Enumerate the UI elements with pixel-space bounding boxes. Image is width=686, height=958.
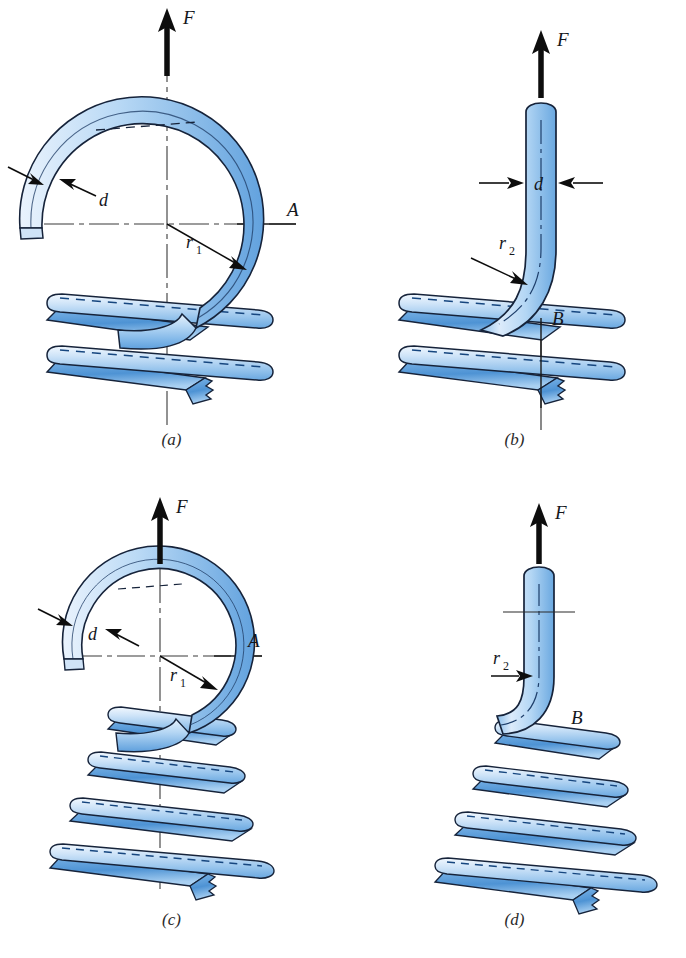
wire-diameter-label-b: d <box>534 174 544 194</box>
section-b-label-d: B <box>571 707 583 728</box>
svg-text:r: r <box>493 648 501 668</box>
svg-text:r: r <box>186 232 194 252</box>
hook-bend-d <box>497 567 554 734</box>
force-arrow-b <box>532 30 550 98</box>
section-a-label-c: A <box>246 630 260 651</box>
hook-radius-label-a: r 1 <box>186 232 202 257</box>
force-label-d: F <box>554 502 567 523</box>
spring-end-detail-figure: F d r 1 A (a) <box>0 0 686 958</box>
svg-text:1: 1 <box>180 676 186 690</box>
force-label-b: F <box>556 29 569 50</box>
hook-radius-leader-a <box>167 224 247 270</box>
wire-diameter-label-c: d <box>88 624 98 644</box>
svg-text:2: 2 <box>503 659 509 673</box>
panel-b: F d r 2 B <box>343 0 686 479</box>
force-arrow-d <box>530 503 548 564</box>
hook-radius-leader-c <box>160 656 218 690</box>
hook-radius-label-c: r 1 <box>170 665 186 690</box>
svg-text:r: r <box>499 233 507 253</box>
svg-text:1: 1 <box>196 243 202 257</box>
panel-c: F d r 1 A <box>0 479 343 958</box>
coil-group-a <box>47 294 273 404</box>
svg-text:r: r <box>170 665 178 685</box>
caption-b: (b) <box>343 430 686 450</box>
bend-radius-leader-b <box>471 258 528 285</box>
coil-group-d <box>435 720 657 914</box>
panel-a: F d r 1 A <box>0 0 343 479</box>
section-a-label-a: A <box>285 199 299 220</box>
svg-text:2: 2 <box>509 244 515 258</box>
panel-d: F r 2 B <box>343 479 686 958</box>
section-b-label-b: B <box>552 308 564 329</box>
wire-diameter-label-a: d <box>99 190 109 210</box>
force-label-c: F <box>175 496 188 517</box>
bend-radius-label-b: r 2 <box>499 233 515 258</box>
caption-d: (d) <box>343 910 686 930</box>
force-label-a: F <box>182 7 195 28</box>
caption-a: (a) <box>0 430 343 450</box>
bend-radius-label-d: r 2 <box>493 648 509 673</box>
force-arrow-a <box>158 8 176 76</box>
caption-c: (c) <box>0 910 343 930</box>
